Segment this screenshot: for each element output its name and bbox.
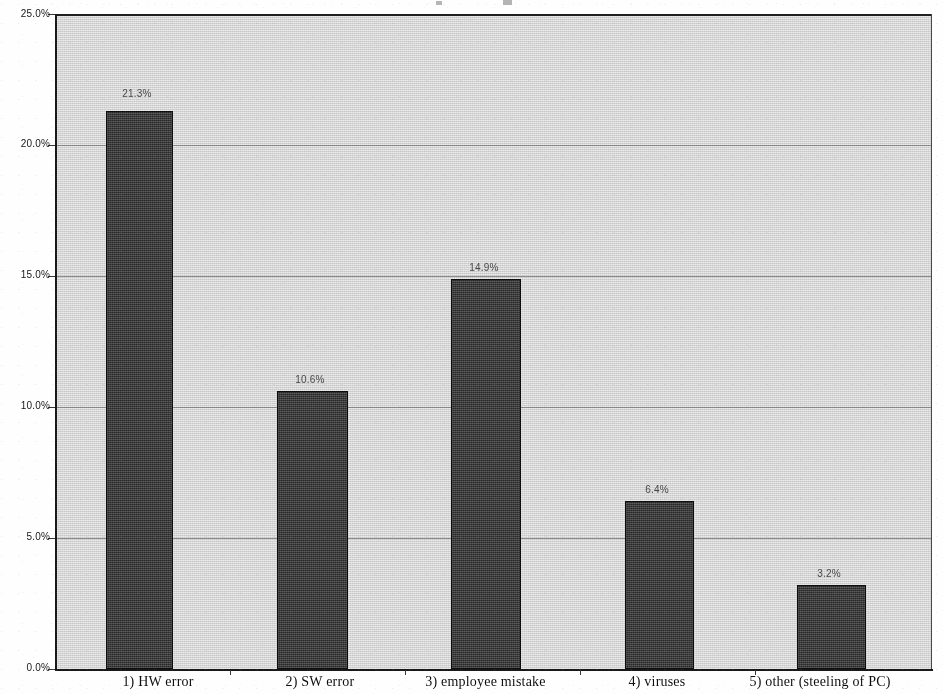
bar-value-viruses: 6.4% [623, 484, 691, 495]
bar-hw-error[interactable] [106, 111, 173, 669]
bar-texture [626, 502, 693, 668]
cropped-title-remnant [0, 0, 943, 7]
bar-value-hw-error: 21.3% [104, 88, 170, 99]
x-axis-label-hw-error: 1) HW error [58, 674, 258, 690]
y-axis-label-0: 0.0% [0, 662, 50, 673]
bar-value-sw-error: 10.6% [275, 374, 345, 385]
bar-employee-mistake[interactable] [451, 279, 521, 669]
y-axis-label-15: 15.0% [0, 269, 50, 280]
y-axis-label-5: 5.0% [0, 531, 50, 542]
x-axis-label-other: 5) other (steeling of PC) [700, 674, 940, 690]
bar-texture [452, 280, 520, 668]
y-axis-line [55, 14, 57, 671]
plot-top-border [55, 14, 932, 16]
bar-texture [798, 586, 865, 668]
gridline-15 [55, 276, 932, 277]
y-axis-label-10: 10.0% [0, 400, 50, 411]
bar-texture [278, 392, 347, 668]
chart-scan-page: 25.0% 20.0% 15.0% 10.0% 5.0% 0.0% [0, 0, 943, 694]
x-axis-line [55, 669, 933, 671]
bar-value-employee-mistake: 14.9% [449, 262, 519, 273]
bar-value-other: 3.2% [795, 568, 863, 579]
gridline-20 [55, 145, 932, 146]
bar-sw-error[interactable] [277, 391, 348, 669]
bar-texture [107, 112, 172, 668]
y-axis-label-25: 25.0% [0, 8, 50, 19]
y-axis-label-20: 20.0% [0, 138, 50, 149]
plot-right-border [931, 14, 932, 669]
bar-viruses[interactable] [625, 501, 694, 669]
bar-other-steeling-of-pc[interactable] [797, 585, 866, 669]
